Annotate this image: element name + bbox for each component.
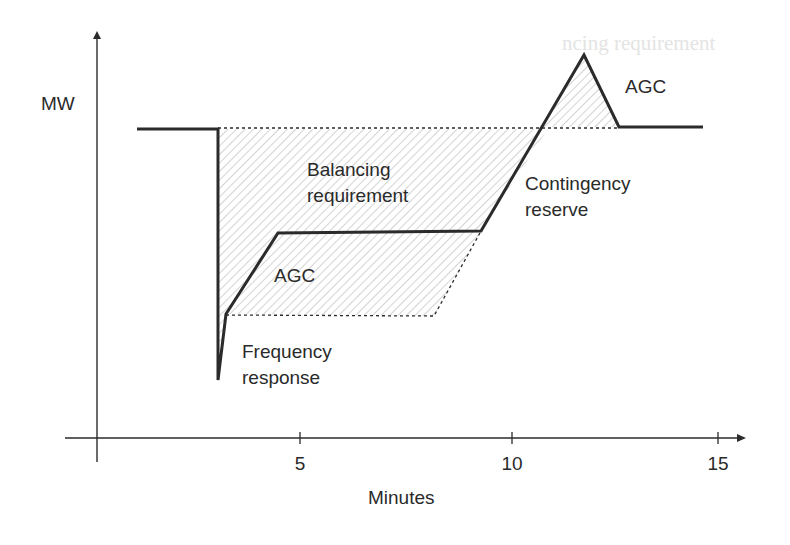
contingency-reserve-label-line2: reserve — [525, 198, 588, 222]
balancing-requirement-label-line2: requirement — [307, 184, 408, 208]
frequency-response-label-line1: Frequency — [242, 340, 332, 364]
contingency-reserve-label-line1: Contingency — [525, 172, 631, 196]
balancing-requirement-diagram — [0, 0, 790, 545]
agc-overshoot-region — [543, 55, 619, 127]
y-axis-label: MW — [41, 92, 75, 116]
agc-lower-label: AGC — [274, 264, 315, 288]
y-axis-arrow-icon — [93, 31, 101, 39]
balancing-requirement-label-line1: Balancing — [307, 158, 390, 182]
x-axis-label: Minutes — [368, 486, 435, 510]
x-tick-label-15: 15 — [707, 453, 728, 475]
x-tick-label-10: 10 — [501, 453, 522, 475]
frequency-response-label-line2: response — [242, 366, 320, 390]
x-axis-arrow-icon — [737, 434, 746, 442]
agc-upper-label: AGC — [625, 75, 666, 99]
x-tick-label-5: 5 — [295, 453, 306, 475]
